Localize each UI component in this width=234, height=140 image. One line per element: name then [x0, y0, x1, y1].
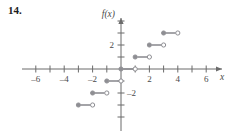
open-endpoint-circle — [147, 55, 151, 59]
open-endpoint-circle — [105, 91, 109, 95]
open-endpoint-circle — [119, 79, 123, 83]
x-tick-label: 6 — [204, 74, 209, 84]
x-tick-label: –6 — [30, 74, 41, 84]
open-endpoint-circle — [133, 67, 137, 71]
x-tick-label: 4 — [176, 74, 181, 84]
y-axis-label: f(x) — [102, 9, 115, 20]
closed-endpoint-dot — [147, 43, 151, 47]
x-axis-arrowhead — [216, 66, 222, 71]
step-segment — [119, 67, 137, 71]
step-segment — [147, 43, 165, 47]
step-function-plot: –6–4–2246 2–2 f(x)x — [0, 0, 234, 140]
figure-container: 14. –6–4–2246 2–2 f(x)x — [0, 0, 234, 140]
x-axis-label: x — [219, 72, 225, 82]
axes-group — [22, 18, 222, 131]
step-segment — [133, 55, 151, 59]
closed-endpoint-dot — [162, 31, 166, 35]
closed-endpoint-dot — [91, 91, 95, 95]
x-tick-label: –4 — [59, 74, 70, 84]
open-endpoint-circle — [176, 31, 180, 35]
open-endpoint-circle — [91, 103, 95, 107]
step-segment — [105, 79, 123, 83]
x-tick-label: –2 — [87, 74, 97, 84]
step-segment — [162, 31, 180, 35]
step-segment — [91, 91, 109, 95]
step-segment — [76, 103, 94, 107]
x-tick-label: 2 — [147, 74, 152, 84]
closed-endpoint-dot — [105, 79, 109, 83]
y-tick-label: –2 — [126, 88, 136, 98]
closed-endpoint-dot — [76, 103, 80, 107]
closed-endpoint-dot — [133, 55, 137, 59]
closed-endpoint-dot — [119, 67, 123, 71]
open-endpoint-circle — [162, 43, 166, 47]
y-tick-label: 2 — [110, 40, 115, 50]
